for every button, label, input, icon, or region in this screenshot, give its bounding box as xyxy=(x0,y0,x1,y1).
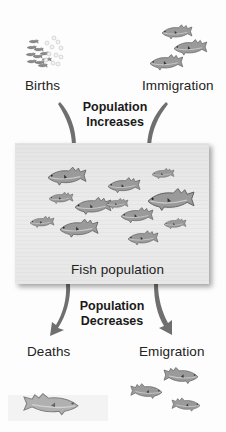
decrease-line-1: Population xyxy=(79,299,145,314)
births-label: Births xyxy=(25,78,60,93)
population-decreases-label: Population Decreases xyxy=(79,299,145,329)
increase-line-1: Population xyxy=(82,100,148,115)
emigration-illustration xyxy=(131,367,200,411)
sink-illustrations xyxy=(0,0,226,432)
immigration-label: Immigration xyxy=(142,78,214,93)
decrease-line-2: Decreases xyxy=(79,314,145,329)
fish-population-label: Fish population xyxy=(71,262,164,277)
increase-line-2: Increases xyxy=(82,115,148,130)
emigration-label: Emigration xyxy=(139,344,205,359)
deaths-label: Deaths xyxy=(27,344,70,359)
population-increases-label: Population Increases xyxy=(82,100,148,130)
deaths-illustration xyxy=(8,394,108,421)
